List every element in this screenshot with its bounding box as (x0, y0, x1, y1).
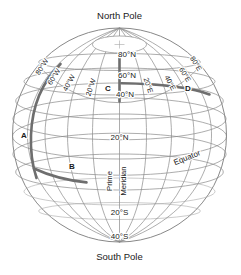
north-pole-label: North Pole (97, 10, 142, 21)
point-label-d: D (185, 84, 191, 93)
latitude-label-20s: 20°S (111, 208, 128, 217)
globe-figure: North Pole South Pole 80°N 60°N 40°N 20°… (0, 0, 241, 275)
latitude-label-80n: 80°N (118, 50, 136, 59)
point-label-b: B (69, 162, 75, 171)
prime-meridian-label-line2: Meridian (119, 166, 128, 195)
latitude-label-40n: 40°N (116, 90, 134, 99)
latitude-label-40s: 40°S (111, 232, 128, 241)
point-label-a: A (21, 131, 27, 140)
prime-meridian-label-line1: Prime (105, 171, 114, 191)
globe-diagram: North Pole South Pole 80°N 60°N 40°N 20°… (0, 0, 241, 275)
south-pole-label: South Pole (96, 251, 142, 262)
point-label-c: C (105, 84, 111, 93)
latitude-label-20n: 20°N (111, 133, 129, 142)
latitude-label-60n: 60°N (118, 71, 136, 80)
